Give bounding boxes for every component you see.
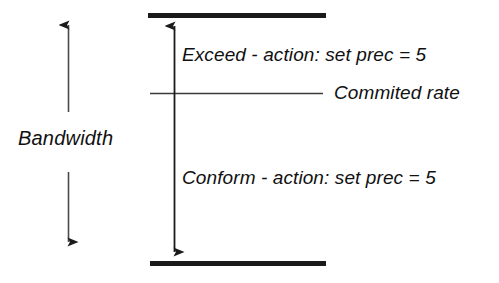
- diagram-canvas: Bandwidth Exceed - action: set prec = 5 …: [0, 0, 499, 283]
- exceed-action-label: Exceed - action: set prec = 5: [182, 45, 426, 64]
- bandwidth-label: Bandwidth: [18, 128, 113, 148]
- conform-action-label: Conform - action: set prec = 5: [182, 168, 436, 187]
- commited-rate-label: Commited rate: [334, 83, 460, 102]
